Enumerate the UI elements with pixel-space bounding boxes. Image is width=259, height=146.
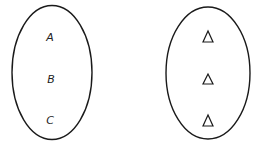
- right-set: [166, 7, 250, 139]
- element-c-label: C: [46, 114, 54, 127]
- left-set: A B C: [12, 6, 92, 140]
- element-a-label: A: [45, 31, 54, 44]
- triangle-icon: [203, 115, 213, 126]
- diagram-canvas: A B C: [0, 0, 259, 146]
- triangle-icon: [203, 74, 213, 84]
- triangle-icon: [203, 31, 213, 42]
- element-b-label: B: [47, 73, 55, 86]
